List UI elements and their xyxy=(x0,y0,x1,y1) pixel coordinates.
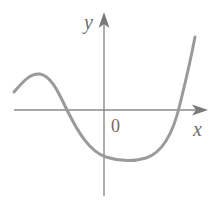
y-axis-label: y xyxy=(82,11,93,34)
x-axis-label: x xyxy=(192,118,202,140)
origin-label: 0 xyxy=(111,116,120,136)
function-graph: y x 0 xyxy=(0,0,221,205)
